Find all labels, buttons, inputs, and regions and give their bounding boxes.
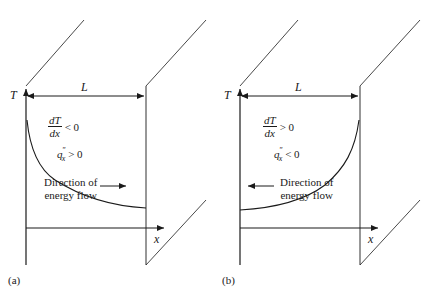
- energy-flow-label: Direction of energy flow: [44, 176, 97, 202]
- heat-flux-expression: q″x < 0: [274, 146, 300, 163]
- energy-flow-line2: energy flow: [280, 189, 333, 202]
- t-axis-label: T: [10, 88, 17, 103]
- energy-flow-line1: Direction of: [44, 176, 97, 189]
- energy-flow-label: Direction of energy flow: [280, 176, 333, 202]
- gradient-relation: < 0: [65, 121, 79, 133]
- panel-tag-b: (b): [222, 274, 235, 286]
- t-axis-label: T: [224, 88, 231, 103]
- heat-flux-expression: q″x > 0: [57, 146, 83, 163]
- length-label: L: [295, 80, 302, 95]
- left-face-top-edge: [240, 20, 298, 86]
- length-label: L: [81, 80, 88, 95]
- energy-flow-line1: Direction of: [280, 176, 333, 189]
- gradient-numerator: dT: [263, 114, 277, 127]
- flux-subscript: x: [279, 154, 283, 163]
- gradient-fraction: dT dx: [48, 114, 62, 139]
- x-axis-label: x: [368, 232, 373, 247]
- flux-relation: > 0: [68, 148, 82, 160]
- left-face-top-edge: [26, 20, 84, 86]
- flux-subscript: x: [62, 154, 66, 163]
- gradient-numerator: dT: [48, 114, 62, 127]
- x-axis-label: x: [154, 232, 159, 247]
- panel-tag-a: (a): [8, 274, 20, 286]
- gradient-denominator: dx: [265, 127, 275, 139]
- energy-flow-line2: energy flow: [44, 189, 97, 202]
- temperature-gradient-expression: dT dx < 0: [48, 114, 79, 139]
- panel-b-graphics: [240, 20, 420, 265]
- flux-relation: < 0: [285, 148, 299, 160]
- panel-a-graphics: [26, 20, 206, 265]
- temperature-gradient-expression: dT dx > 0: [263, 114, 294, 139]
- gradient-denominator: dx: [50, 127, 60, 139]
- right-face-top-edge: [360, 20, 420, 86]
- gradient-fraction: dT dx: [263, 114, 277, 139]
- right-face-top-edge: [146, 20, 206, 86]
- gradient-relation: > 0: [280, 121, 294, 133]
